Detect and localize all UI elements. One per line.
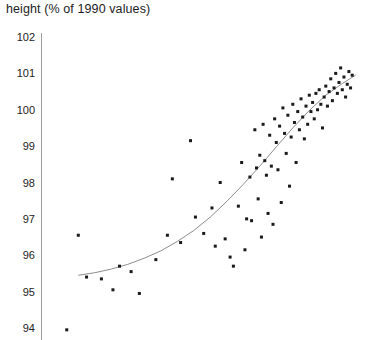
data-point — [351, 74, 354, 77]
data-point — [265, 174, 268, 177]
data-point — [267, 212, 270, 215]
y-tick-label: 98 — [23, 177, 35, 189]
data-point — [263, 159, 266, 162]
data-point — [338, 81, 341, 84]
data-point — [296, 110, 299, 113]
data-point — [270, 165, 273, 168]
data-point — [318, 88, 321, 91]
y-tick-label: 96 — [23, 249, 35, 261]
data-point — [240, 161, 243, 164]
data-point — [130, 270, 133, 273]
data-point — [257, 197, 260, 200]
data-point — [243, 248, 246, 251]
y-tick-labels: 949596979899100101102 — [17, 31, 35, 334]
data-point — [344, 96, 347, 99]
data-point — [285, 152, 288, 155]
data-point — [288, 185, 291, 188]
data-point — [324, 85, 327, 88]
data-point — [276, 168, 279, 171]
data-point — [194, 216, 197, 219]
data-point — [346, 83, 349, 86]
y-tick-label: 94 — [23, 322, 35, 334]
data-point — [301, 116, 304, 119]
data-point — [258, 154, 261, 157]
data-point — [328, 90, 331, 93]
data-point — [260, 236, 263, 239]
data-point — [281, 106, 284, 109]
data-point — [229, 256, 232, 259]
data-point — [342, 76, 345, 79]
data-point — [189, 139, 192, 142]
data-point — [283, 132, 286, 135]
data-point — [347, 70, 350, 73]
data-point — [245, 217, 248, 220]
data-point — [339, 66, 342, 69]
data-point — [290, 136, 293, 139]
data-point — [305, 105, 308, 108]
data-point — [336, 92, 339, 95]
data-point — [255, 166, 258, 169]
data-point — [321, 126, 324, 129]
data-point — [334, 72, 337, 75]
data-point — [273, 117, 276, 120]
data-point — [118, 265, 121, 268]
data-point — [319, 103, 322, 106]
data-point — [286, 114, 289, 117]
data-point — [179, 241, 182, 244]
data-point — [333, 86, 336, 89]
data-point — [329, 77, 332, 80]
data-point — [100, 277, 103, 280]
data-point — [275, 141, 278, 144]
data-point — [291, 103, 294, 106]
scatter-chart: height (% of 1990 values) 94959697989910… — [0, 0, 376, 340]
data-point — [77, 234, 80, 237]
data-point — [166, 234, 169, 237]
data-point — [280, 201, 283, 204]
data-point — [303, 137, 306, 140]
plot-area: 949596979899100101102 — [0, 0, 376, 340]
data-point — [268, 134, 271, 137]
data-point — [85, 276, 88, 279]
data-point — [138, 292, 141, 295]
data-point — [298, 128, 301, 131]
data-point — [250, 219, 253, 222]
data-point — [248, 176, 251, 179]
data-point — [232, 265, 235, 268]
data-point — [65, 328, 68, 331]
y-tick-label: 101 — [17, 67, 35, 79]
data-point — [341, 88, 344, 91]
data-point — [331, 99, 334, 102]
data-point — [278, 125, 281, 128]
data-point — [202, 232, 205, 235]
data-point — [349, 86, 352, 89]
data-point — [308, 94, 311, 97]
data-point — [313, 117, 316, 120]
data-point — [237, 205, 240, 208]
data-point — [171, 177, 174, 180]
y-tick-label: 102 — [17, 31, 35, 43]
data-point — [293, 121, 296, 124]
data-point — [262, 123, 265, 126]
data-point — [300, 97, 303, 100]
data-point — [224, 237, 227, 240]
data-point — [326, 105, 329, 108]
data-points — [65, 66, 353, 331]
data-point — [111, 288, 114, 291]
data-point — [323, 96, 326, 99]
y-tick-label: 95 — [23, 286, 35, 298]
data-point — [210, 206, 213, 209]
y-tick-label: 100 — [17, 104, 35, 116]
data-point — [295, 161, 298, 164]
data-point — [316, 108, 319, 111]
data-point — [311, 101, 314, 104]
data-point — [309, 110, 312, 113]
data-point — [219, 181, 222, 184]
data-point — [272, 223, 275, 226]
fit-curve — [78, 75, 355, 275]
data-point — [314, 92, 317, 95]
data-point — [154, 258, 157, 261]
y-tick-label: 99 — [23, 140, 35, 152]
y-tick-label: 97 — [23, 213, 35, 225]
data-point — [253, 128, 256, 131]
data-point — [306, 123, 309, 126]
